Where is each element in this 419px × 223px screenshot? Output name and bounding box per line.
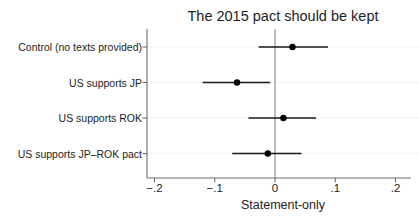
coefficient-plot-figure: The 2015 pact should be kept Control (no… [0,0,419,223]
x-axis-tick-labels: −.2−.10.1.2 [0,0,419,223]
x-axis-tick-label-3: .1 [330,182,340,195]
x-axis-title: Statement-only [147,198,419,213]
x-axis-tick-label-2: 0 [272,182,278,195]
x-axis-tick-label-1: −.1 [207,182,223,195]
x-axis-tick-label-4: .2 [391,182,401,195]
x-axis-tick-label-0: −.2 [146,182,162,195]
